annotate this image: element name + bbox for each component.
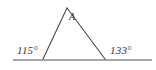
triangle-on-line-diagram bbox=[0, 0, 156, 70]
angle-label-right: 133° bbox=[110, 45, 132, 56]
geometry-figure: A 115° 133° bbox=[0, 0, 156, 70]
vertex-label-a: A bbox=[69, 12, 75, 22]
angle-label-left: 115° bbox=[17, 45, 38, 56]
triangle-left-side bbox=[43, 8, 67, 59]
